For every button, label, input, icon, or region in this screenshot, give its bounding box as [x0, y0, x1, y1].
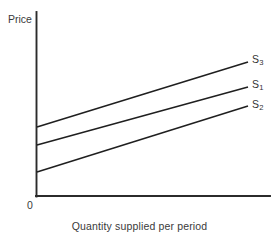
curve-label-s2-base: S	[252, 98, 259, 110]
curve-label-s2-subscript: 2	[259, 103, 263, 112]
origin-label: 0	[27, 200, 33, 211]
curve-label-s3-subscript: 3	[259, 58, 263, 67]
curve-label-s2: S2	[252, 99, 263, 110]
supply-curve-figure: Price 0 Quantity supplied per period S3 …	[0, 0, 279, 246]
y-axis-label: Price	[8, 14, 32, 25]
curve-label-s1-base: S	[252, 78, 259, 90]
curve-label-s3-base: S	[252, 53, 259, 65]
x-axis-label: Quantity supplied per period	[0, 221, 279, 232]
curve-label-s1: S1	[252, 79, 263, 90]
curve-label-s3: S3	[252, 54, 263, 65]
figure-canvas	[0, 0, 279, 246]
curve-label-s1-subscript: 1	[259, 83, 263, 92]
supply-curve-s3	[37, 62, 248, 127]
